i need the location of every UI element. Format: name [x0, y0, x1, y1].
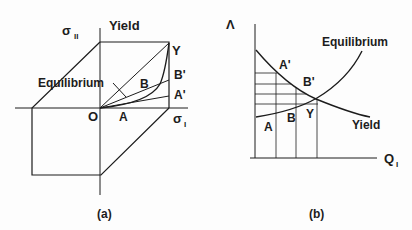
point-label-Bprime-a: B' — [174, 68, 186, 82]
panel-a-y-axis-label: σ — [62, 23, 71, 38]
point-label-A-a: A — [119, 110, 128, 124]
point-label-O-a: O — [88, 109, 98, 124]
point-label-Y-b: Y — [306, 107, 314, 121]
point-label-B-a: B — [140, 77, 149, 91]
panel-b-x-axis-sub: I — [396, 160, 398, 169]
point-label-Aprime-b: A' — [279, 58, 291, 72]
panel-b-equilibrium-label: Equilibrium — [322, 35, 388, 49]
point-label-A-b: A — [264, 120, 273, 134]
panel-a-yield-label: Yield — [109, 18, 140, 33]
panel-b-caption: (b) — [309, 207, 324, 221]
panel-a-x-axis-label: σ — [173, 111, 182, 126]
panel-a-y-axis-sub: II — [74, 32, 78, 41]
point-label-Y-a: Y — [172, 43, 181, 58]
point-label-Bprime-b: B' — [303, 75, 315, 89]
panel-b-y-axis-label: Λ — [226, 17, 235, 32]
panel-a-x-axis-sub: I — [184, 120, 186, 129]
panel-b-yield-label: Yield — [352, 118, 380, 132]
diagram-svg: σ II Yield Y B' A' Equilibrium B O A σ I… — [0, 0, 412, 230]
stress-path-O-Bprime — [100, 80, 169, 108]
panel-b: Λ Equilibrium A' B' Y B A Yield Q I (b) — [226, 17, 398, 221]
point-label-B-b: B — [287, 111, 296, 125]
figure-plasticity-diagram: σ II Yield Y B' A' Equilibrium B O A σ I… — [0, 0, 412, 230]
panel-b-x-axis-label: Q — [384, 151, 394, 166]
panel-a: σ II Yield Y B' A' Equilibrium B O A σ I… — [15, 18, 188, 221]
panel-a-equilibrium-label: Equilibrium — [38, 76, 104, 90]
panel-a-caption: (a) — [97, 207, 112, 221]
point-label-Aprime-a: A' — [174, 88, 186, 102]
